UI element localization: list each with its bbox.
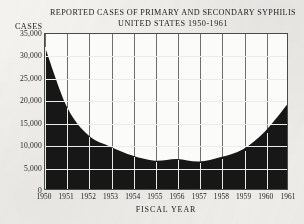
x-axis-tick-label: 1954 bbox=[125, 192, 140, 201]
x-axis-tick-label: 1958 bbox=[214, 192, 229, 201]
area-series bbox=[45, 34, 287, 189]
x-axis-tick-label: 1957 bbox=[192, 192, 207, 201]
y-axis-tick-label: 35,000 bbox=[0, 29, 42, 38]
y-axis-tick-label: 25,000 bbox=[0, 73, 42, 82]
x-axis-tick-label: 1950 bbox=[36, 192, 51, 201]
x-axis-tick-label: 1959 bbox=[236, 192, 251, 201]
chart-title-block: REPORTED CASES OF PRIMARY AND SECONDARY … bbox=[48, 7, 298, 29]
x-axis: 1950195119521953195419551956195719581959… bbox=[44, 192, 288, 204]
area-path bbox=[45, 47, 287, 189]
y-axis-tick-label: 10,000 bbox=[0, 141, 42, 150]
chart-page: REPORTED CASES OF PRIMARY AND SECONDARY … bbox=[0, 0, 304, 224]
x-axis-tick-label: 1952 bbox=[81, 192, 96, 201]
y-axis-tick-label: 20,000 bbox=[0, 96, 42, 105]
chart-title: REPORTED CASES OF PRIMARY AND SECONDARY … bbox=[48, 7, 298, 18]
y-axis-tick-label: 15,000 bbox=[0, 118, 42, 127]
x-axis-tick-label: 1961 bbox=[280, 192, 295, 201]
x-axis-tick-label: 1955 bbox=[147, 192, 162, 201]
x-axis-tick-label: 1953 bbox=[103, 192, 118, 201]
x-axis-title: FISCAL YEAR bbox=[44, 205, 288, 214]
x-axis-tick-label: 1960 bbox=[258, 192, 273, 201]
x-axis-tick-label: 1956 bbox=[169, 192, 184, 201]
x-axis-tick-label: 1951 bbox=[59, 192, 74, 201]
y-axis-tick-label: 5,000 bbox=[0, 163, 42, 172]
plot-area bbox=[44, 33, 288, 190]
y-axis-tick-label: 30,000 bbox=[0, 51, 42, 60]
y-axis: 35,00030,00025,00020,00015,00010,0005,00… bbox=[0, 33, 42, 190]
chart-subtitle: UNITED STATES 1950-1961 bbox=[48, 18, 298, 29]
